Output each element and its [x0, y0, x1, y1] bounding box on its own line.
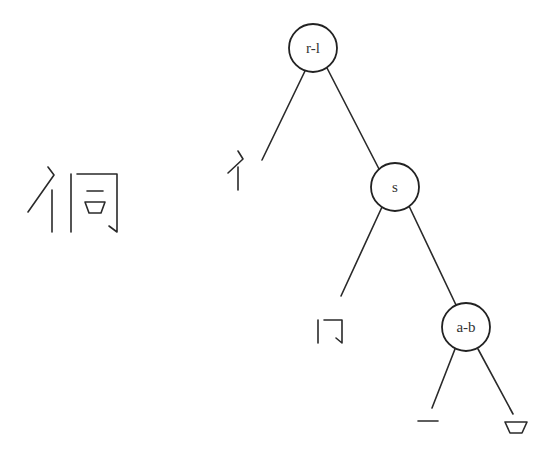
decomposition-diagram: r-l s a-b	[0, 0, 548, 460]
node-label: a-b	[456, 319, 475, 335]
edge-s-left	[341, 207, 382, 296]
edge-ab-right	[478, 349, 513, 414]
full-character-glyph	[28, 167, 117, 232]
node-root: r-l	[289, 24, 337, 72]
leaf-person-radical	[228, 151, 243, 190]
node-label: r-l	[306, 40, 320, 56]
leaf-enclosure	[318, 320, 342, 343]
edge-s-right	[409, 206, 456, 305]
node-right: s	[371, 163, 419, 211]
edge-root-left	[262, 71, 305, 160]
leaf-mouth	[505, 422, 527, 433]
node-label: s	[392, 179, 398, 195]
tree-edges	[262, 68, 513, 414]
edge-root-right	[327, 68, 379, 169]
edge-ab-left	[432, 349, 455, 408]
node-inner: a-b	[442, 303, 490, 351]
